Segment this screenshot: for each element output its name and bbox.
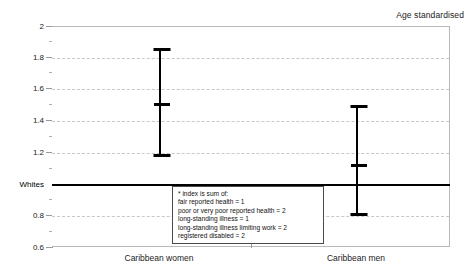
gridline-1-8 (52, 58, 449, 59)
y-tick-1-6 (46, 88, 52, 89)
chart-container: Age standardised Whites (0, 0, 472, 273)
footnote-line-4: long-standing illness = 1 (178, 215, 319, 223)
y-axis-label-0-6: 0.6 (0, 243, 44, 252)
y-tick-minor-0-9 (49, 199, 52, 200)
y-axis-label-1-6: 1.6 (0, 84, 44, 93)
y-tick-1-2 (46, 152, 52, 153)
y-tick-0-8 (46, 215, 52, 216)
error-bar-caribbean-men (356, 106, 358, 214)
error-bar-caribbean-women (159, 49, 161, 155)
y-tick-0-6 (46, 247, 52, 248)
footnote-box: * index is sum of: fair reported health … (172, 186, 324, 244)
x-axis-label-caribbean-women: Caribbean women (125, 253, 194, 263)
gridline-1-6 (52, 89, 449, 90)
y-tick-minor-1-7 (49, 72, 52, 73)
y-axis-label-0-8: 0.8 (0, 211, 44, 220)
error-bar-cap-upper-men (351, 105, 368, 108)
y-tick-2 (46, 26, 52, 27)
gridline-1-4 (52, 121, 449, 122)
footnote-line-5: long-standing illness limiting work = 2 (178, 224, 319, 232)
y-tick-minor-1-5 (49, 104, 52, 105)
error-bar-cap-upper-women (154, 48, 171, 51)
x-axis-label-caribbean-men: Caribbean men (327, 253, 385, 263)
y-tick-1-8 (46, 57, 52, 58)
point-estimate-marker-women (154, 103, 170, 106)
y-axis-label-1-2: 1.2 (0, 148, 44, 157)
footnote-line-3: poor or very poor reported health = 2 (178, 207, 319, 215)
age-standardised-note: Age standardised (396, 10, 464, 20)
y-axis-label-1-4: 1.4 (0, 116, 44, 125)
y-axis-label-2: 2 (0, 22, 44, 31)
y-tick-minor-1-9 (49, 41, 52, 42)
error-bar-cap-lower-women (154, 154, 171, 157)
whites-reference-label: Whites (0, 180, 44, 189)
error-bar-cap-lower-men (351, 213, 368, 216)
y-axis-label-1-8: 1.8 (0, 53, 44, 62)
footnote-line-6: registered disabled = 2 (178, 232, 319, 240)
footnote-line-1: * index is sum of: (178, 190, 319, 198)
point-estimate-marker-men (351, 164, 367, 167)
y-tick-minor-1-3 (49, 136, 52, 137)
footnote-line-2: fair reported health = 1 (178, 198, 319, 206)
gridline-1-2 (52, 153, 449, 154)
y-tick-1-4 (46, 120, 52, 121)
y-tick-minor-1-1 (49, 168, 52, 169)
y-tick-minor-0-7 (49, 231, 52, 232)
